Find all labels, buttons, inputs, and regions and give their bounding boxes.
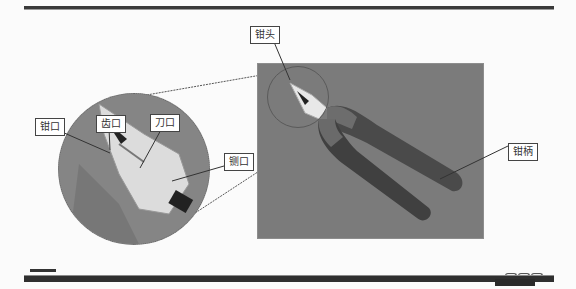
label-side-cutter: 铡口 [224, 153, 254, 171]
bottom-tabs-decoration [505, 265, 545, 274]
label-blade: 刀口 [150, 114, 180, 132]
label-head: 钳头 [250, 26, 280, 44]
label-leader-lines [0, 0, 576, 289]
label-jaw: 钳口 [35, 118, 65, 136]
bottom-right-accent [495, 279, 535, 286]
label-handle: 钳柄 [508, 143, 538, 161]
bottom-rule [24, 275, 554, 282]
bottom-left-accent [30, 269, 56, 272]
label-teeth: 齿口 [96, 115, 126, 133]
